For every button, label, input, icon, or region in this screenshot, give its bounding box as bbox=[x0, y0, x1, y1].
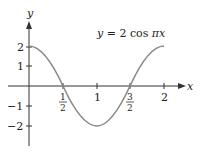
y-axis-arrow-icon bbox=[26, 21, 32, 29]
equation-mid: = 2 cos bbox=[103, 27, 152, 40]
cosine-chart: y x 2 1 −1 −2 1 2 1 3 2 2 y = 2 cos πx bbox=[0, 0, 202, 156]
x-tick-2: 2 bbox=[161, 91, 168, 104]
x-tick-half-den: 2 bbox=[60, 103, 66, 113]
equation-pix: πx bbox=[151, 27, 166, 40]
x-tick-three-half-den: 2 bbox=[127, 103, 133, 113]
y-axis-label: y bbox=[26, 7, 34, 20]
x-axis-arrow-icon bbox=[178, 83, 186, 89]
y-tick-neg2: −2 bbox=[7, 120, 23, 133]
y-tick-1: 1 bbox=[17, 60, 24, 73]
y-tick-neg1: −1 bbox=[7, 100, 23, 113]
equation-label: y = 2 cos πx bbox=[96, 27, 166, 40]
x-axis-label: x bbox=[187, 80, 194, 93]
x-tick-three-half-num: 3 bbox=[127, 92, 133, 102]
x-tick-1: 1 bbox=[94, 91, 101, 104]
x-tick-half-num: 1 bbox=[60, 92, 66, 102]
y-tick-2: 2 bbox=[17, 41, 24, 54]
